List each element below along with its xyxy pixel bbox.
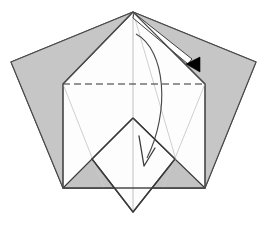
- origami-diagram-figure: Origami folding step diagram: [0, 0, 267, 228]
- origami-diagram-canvas: Origami folding step diagram: [0, 0, 267, 228]
